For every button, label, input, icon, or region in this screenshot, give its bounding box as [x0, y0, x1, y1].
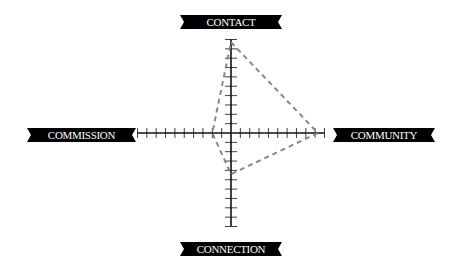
axis-label-contact: CONTACT [207, 16, 257, 28]
axis-label-commission: COMMISSION [48, 129, 116, 141]
axis-label-connection: CONNECTION [197, 243, 266, 255]
radar-chart: CONTACT COMMISSION COMMUNITY CONNECTION [0, 0, 460, 271]
banner-right: COMMUNITY [333, 128, 435, 142]
banner-top: CONTACT [180, 15, 282, 29]
banner-left: COMMISSION [27, 128, 136, 142]
axis-label-community: COMMUNITY [351, 129, 418, 141]
series-polygon [212, 42, 318, 174]
axes [138, 40, 325, 227]
banner-bottom: CONNECTION [180, 242, 282, 256]
data-polygon [212, 42, 318, 174]
